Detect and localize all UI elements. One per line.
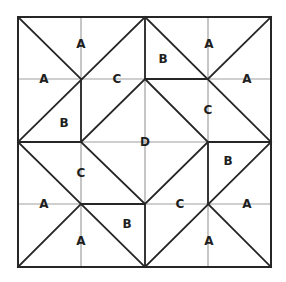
seam-diagonal <box>18 204 81 267</box>
piece-label: C <box>77 166 86 180</box>
piece-label: A <box>204 37 214 51</box>
seam-diagonal <box>208 204 271 267</box>
piece-label: A <box>39 72 49 86</box>
piece-label: A <box>76 37 86 51</box>
piece-label: A <box>39 197 49 211</box>
piece-label: C <box>204 103 213 117</box>
piece-label: A <box>76 234 86 248</box>
piece-label: C <box>176 197 185 211</box>
piece-label: C <box>113 72 122 86</box>
seam-diagonal <box>208 17 271 79</box>
piece-label-center: D <box>140 135 150 149</box>
piece-label: B <box>59 116 68 130</box>
piece-label: B <box>122 217 131 231</box>
piece-label: B <box>158 52 167 66</box>
quilt-block-diagram: A A C B B A A C D C B A C A B A A <box>0 0 286 282</box>
piece-label: B <box>223 154 232 168</box>
piece-label: A <box>204 234 214 248</box>
piece-label: A <box>242 197 252 211</box>
seam-diagonal <box>18 17 81 79</box>
piece-label: A <box>242 72 252 86</box>
